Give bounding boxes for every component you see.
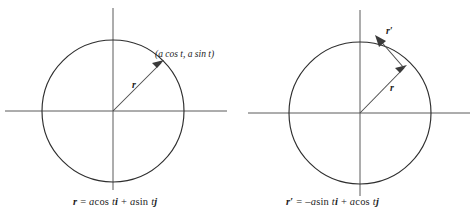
equation-term2-unit: j [154, 196, 157, 207]
equation-term2-fn: cos [355, 196, 370, 207]
velocity-vector-panel: r r′ r′ = –asin ti + acos tj [238, 0, 476, 218]
equation-term2-unit: j [376, 196, 379, 207]
equation-equals: = [80, 196, 86, 207]
equation-plus: + [341, 196, 347, 207]
position-vector-label: r [132, 80, 136, 90]
prime-mark: ′ [390, 25, 393, 36]
equation-lhs: r [73, 196, 77, 207]
position-vector-line [360, 68, 404, 113]
figure-container: (a cos t, a sin t) r r = acos ti + asin … [0, 0, 476, 218]
equation-term1-unit: i [115, 196, 118, 207]
point-coordinate-label: (a cos t, a sin t) [155, 50, 214, 60]
position-equation: r = acos ti + asin tj [73, 197, 157, 208]
left-diagram-canvas [0, 0, 238, 218]
velocity-vector-label: r′ [386, 26, 393, 36]
equation-plus: + [121, 196, 127, 207]
right-diagram-canvas [238, 0, 476, 218]
position-vector-arrowhead [152, 60, 164, 68]
velocity-equation: r′ = –asin ti + acos tj [286, 197, 379, 208]
position-vector-label: r [390, 83, 394, 93]
equation-term1-fn: cos [95, 196, 110, 207]
equation-term2-fn: sin [135, 196, 148, 207]
position-vector-arrowhead [395, 65, 407, 73]
position-vector-line [113, 63, 161, 111]
equation-lhs-prime: ′ [290, 196, 293, 207]
position-vector-panel: (a cos t, a sin t) r r = acos ti + asin … [0, 0, 238, 218]
equation-equals: = [296, 196, 302, 207]
equation-term1-fn: sin [316, 196, 329, 207]
equation-term1-unit: i [335, 196, 338, 207]
